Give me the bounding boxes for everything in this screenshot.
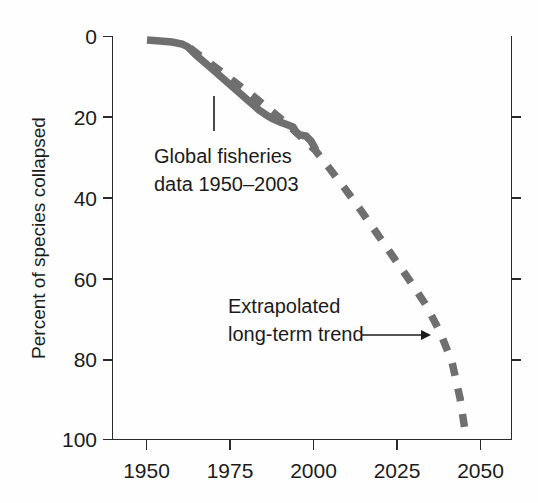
x-tick-label-1950: 1950: [123, 459, 170, 482]
y-axis-title: Percent of species collapsed: [28, 117, 49, 359]
x-tick-label-1975: 1975: [207, 459, 254, 482]
extrapolation-annotation: Extrapolated long-term trend: [228, 295, 431, 345]
extrapolation-annotation-line1: Extrapolated: [228, 295, 340, 317]
y-tick-label-20: 20: [74, 106, 97, 129]
y-tick-label-40: 40: [74, 187, 97, 210]
x-axis-tick-labels: 1950 1975 2000 2025 2050: [123, 459, 504, 482]
x-tick-label-2025: 2025: [374, 459, 421, 482]
right-axis-ticks: [511, 117, 521, 359]
y-axis-ticks: [103, 37, 113, 440]
historical-annotation-line2: data 1950–2003: [154, 173, 299, 195]
y-tick-label-60: 60: [74, 268, 97, 291]
series-extrapolated-long-term-trend: [190, 48, 466, 437]
x-axis-ticks: [147, 439, 481, 450]
historical-annotation-line1: Global fisheries: [154, 145, 292, 167]
chart-figure: 0 20 40 60 80 100 1950 1975 2000 2025 20…: [0, 0, 538, 503]
historical-data-solid-line: [147, 40, 316, 150]
extrapolation-annotation-line2: long-term trend: [228, 323, 364, 345]
axes-frame: [112, 36, 512, 440]
arrow-right-icon: [421, 330, 431, 340]
y-tick-label-0: 0: [85, 25, 97, 48]
y-axis-tick-labels: 0 20 40 60 80 100: [62, 25, 97, 451]
y-tick-label-100: 100: [62, 428, 97, 451]
line-chart-canvas: 0 20 40 60 80 100 1950 1975 2000 2025 20…: [0, 0, 538, 503]
y-tick-label-80: 80: [74, 348, 97, 371]
x-tick-label-2000: 2000: [290, 459, 337, 482]
series-global-fisheries-data: [147, 40, 316, 150]
extrapolated-trend-dashed-line: [190, 48, 466, 437]
x-tick-label-2050: 2050: [457, 459, 504, 482]
